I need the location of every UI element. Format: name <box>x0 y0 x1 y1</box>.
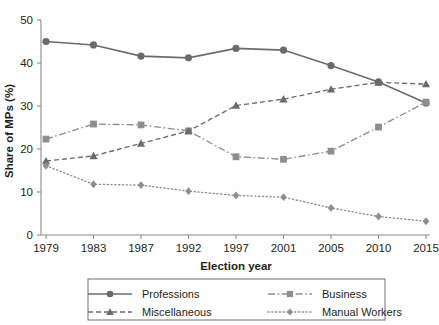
series-manual-workers <box>43 162 430 225</box>
data-series-group <box>42 38 430 225</box>
x-tick-label: 1992 <box>176 242 202 254</box>
circle-marker <box>232 45 239 52</box>
y-tick-label: 40 <box>20 57 33 69</box>
legend-item-manual-workers[interactable]: Manual Workers <box>268 306 402 318</box>
square-marker <box>280 156 287 163</box>
x-tick-label: 1987 <box>128 242 154 254</box>
x-axis-tick-labels: 197919831987199219972001200520102015 <box>33 242 439 254</box>
x-tick-label: 1997 <box>223 242 249 254</box>
series-line <box>46 102 426 159</box>
diamond-marker <box>375 213 382 221</box>
diamond-marker <box>328 204 335 212</box>
x-axis-title: Election year <box>200 260 272 272</box>
series-line <box>46 82 426 161</box>
square-marker <box>328 148 335 155</box>
x-tick-label: 1983 <box>81 242 107 254</box>
y-tick-label: 10 <box>20 186 33 198</box>
x-tick-marks <box>46 235 426 239</box>
legend-label: Professions <box>142 288 200 300</box>
circle-marker <box>137 53 144 60</box>
square-marker <box>90 121 97 128</box>
circle-marker <box>327 62 334 69</box>
axes <box>37 20 430 239</box>
y-tick-marks <box>37 20 41 235</box>
series-miscellaneous <box>42 78 430 164</box>
square-marker <box>375 124 382 131</box>
circle-marker <box>280 47 287 54</box>
circle-marker <box>107 291 114 298</box>
chart-figure: Share of MPs (%) 0 10 20 30 40 50 <box>0 0 439 325</box>
diamond-marker <box>280 193 287 201</box>
y-tick-label: 50 <box>20 14 33 26</box>
circle-marker <box>42 38 49 45</box>
x-tick-label: 2010 <box>366 242 392 254</box>
x-tick-label: 2005 <box>318 242 344 254</box>
square-marker <box>43 136 50 143</box>
diamond-marker <box>90 180 97 188</box>
diamond-marker <box>185 187 192 195</box>
line-chart: Share of MPs (%) 0 10 20 30 40 50 <box>0 0 439 325</box>
legend-label: Miscellaneous <box>142 306 212 318</box>
diamond-marker <box>233 192 240 200</box>
y-tick-label: 30 <box>20 100 33 112</box>
y-tick-label: 20 <box>20 143 33 155</box>
legend-item-business[interactable]: Business <box>268 288 367 300</box>
legend-label: Manual Workers <box>322 306 402 318</box>
y-axis-tick-labels: 0 10 20 30 40 50 <box>20 14 33 241</box>
circle-marker <box>185 54 192 61</box>
diamond-marker <box>423 217 430 225</box>
x-tick-label: 2001 <box>271 242 297 254</box>
diamond-marker <box>287 308 293 315</box>
legend: ProfessionsBusinessMiscellaneousManual W… <box>88 288 402 318</box>
y-tick-label: 0 <box>27 229 33 241</box>
legend-label: Business <box>322 288 367 300</box>
legend-item-miscellaneous[interactable]: Miscellaneous <box>88 306 212 318</box>
y-axis-title: Share of MPs (%) <box>3 84 15 178</box>
x-tick-label: 1979 <box>33 242 59 254</box>
x-tick-label: 2015 <box>413 242 439 254</box>
series-professions <box>42 38 429 107</box>
square-marker <box>138 122 145 129</box>
square-marker <box>287 291 293 297</box>
square-marker <box>423 99 430 106</box>
circle-marker <box>90 41 97 48</box>
square-marker <box>233 153 240 160</box>
legend-item-professions[interactable]: Professions <box>88 288 200 300</box>
diamond-marker <box>138 181 145 189</box>
